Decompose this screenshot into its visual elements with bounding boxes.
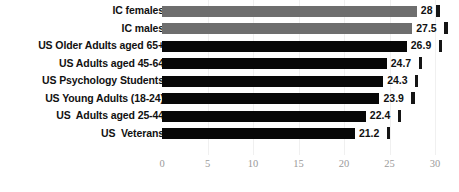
bar-value-label: 22.4: [370, 109, 390, 121]
bar-value-label: 28: [421, 4, 433, 16]
bar-rows: IC females28IC males27.5US Older Adults …: [0, 3, 459, 143]
category-label: US Older Adults aged 65+: [4, 39, 164, 51]
bar: [162, 23, 412, 34]
bar: [162, 93, 379, 104]
error-bar-marker: [398, 110, 402, 122]
category-label: IC females: [4, 4, 164, 16]
bar-value-label: 21.2: [359, 127, 379, 139]
category-label: IC males: [4, 22, 164, 34]
bar-row: US Older Adults aged 65+26.9: [0, 38, 459, 56]
bar-row: US Psychology Students24.3: [0, 73, 459, 91]
category-label: US Young Adults (18-24): [4, 92, 164, 104]
x-axis-tick-label: 20: [324, 158, 364, 169]
error-bar-marker: [419, 57, 423, 69]
bar-value-label: 24.7: [391, 57, 411, 69]
bar-row: US Adults aged 25-4422.4: [0, 108, 459, 126]
category-label: US Adults aged 25-44: [4, 109, 164, 121]
bar-value-label: 27.5: [416, 22, 436, 34]
x-axis-tick-label: 25: [370, 158, 410, 169]
bar: [162, 111, 366, 122]
error-bar-marker: [411, 92, 415, 104]
error-bar-marker: [387, 127, 391, 139]
category-label: US Adults aged 45-64: [4, 57, 164, 69]
bar-value-label: 23.9: [383, 92, 403, 104]
bar: [162, 6, 417, 17]
x-axis: 051015202530: [0, 158, 459, 178]
horizontal-bar-chart: IC females28IC males27.5US Older Adults …: [0, 0, 459, 192]
error-bar-marker: [415, 75, 419, 87]
error-bar-marker: [439, 40, 443, 52]
bar-row: US Adults aged 45-6424.7: [0, 56, 459, 74]
category-label: US Psychology Students: [4, 74, 164, 86]
x-axis-tick-label: 30: [415, 158, 455, 169]
bar-row: IC males27.5: [0, 21, 459, 39]
bar: [162, 58, 387, 69]
bar-row: US Veterans21.2: [0, 126, 459, 144]
bar: [162, 41, 407, 52]
x-axis-tick-label: 5: [188, 158, 228, 169]
bar-value-label: 24.3: [387, 74, 407, 86]
bar: [162, 76, 383, 87]
bar-value-label: 26.9: [411, 39, 431, 51]
x-axis-tick-label: 15: [279, 158, 319, 169]
error-bar-marker: [444, 22, 448, 34]
x-axis-tick-label: 0: [142, 158, 182, 169]
bar: [162, 128, 355, 139]
error-bar-marker: [436, 5, 440, 17]
category-label: US Veterans: [4, 127, 164, 139]
bar-row: IC females28: [0, 3, 459, 21]
x-axis-tick-label: 10: [233, 158, 273, 169]
bar-row: US Young Adults (18-24)23.9: [0, 91, 459, 109]
